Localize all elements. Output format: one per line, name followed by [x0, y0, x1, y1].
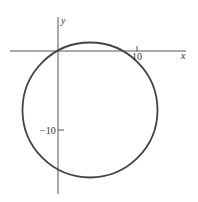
circle-graph: y x 10 −10	[0, 0, 198, 202]
x-tick-label: 10	[132, 51, 142, 62]
y-tick-label: −10	[40, 125, 56, 136]
circle-curve	[23, 43, 158, 178]
y-axis-label: y	[60, 15, 66, 26]
x-axis-label: x	[180, 50, 186, 61]
